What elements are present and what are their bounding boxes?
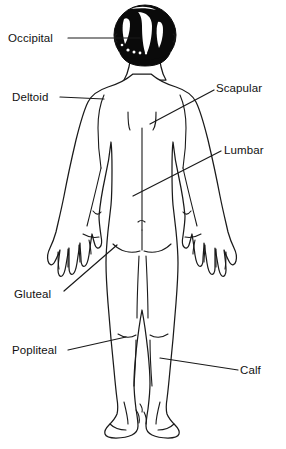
hair-speck-3 (139, 52, 142, 55)
label-calf: Calf (240, 364, 261, 377)
label-popliteal: Popliteal (12, 344, 57, 357)
body-diagram-svg (0, 0, 286, 449)
label-lumbar: Lumbar (224, 144, 264, 157)
hair-speck-2 (133, 51, 136, 54)
label-gluteal: Gluteal (14, 288, 51, 301)
body-outline-group (48, 5, 237, 438)
leader-line-calf (160, 358, 238, 370)
hair-speck-1 (126, 48, 129, 51)
hair-speck-5 (145, 52, 147, 54)
hair-speck-4 (121, 44, 124, 47)
label-occipital: Occipital (8, 32, 53, 45)
anatomy-figure: Occipital Deltoid Scapular Lumbar Glutea… (0, 0, 286, 449)
label-scapular: Scapular (216, 82, 262, 95)
label-deltoid: Deltoid (12, 91, 49, 104)
